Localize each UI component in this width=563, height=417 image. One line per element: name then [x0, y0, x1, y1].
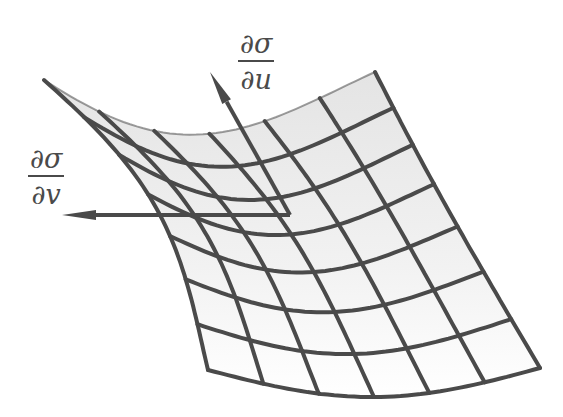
surface-grid-canvas — [0, 0, 563, 417]
fraction-bar — [28, 175, 64, 177]
fraction-bar — [238, 60, 274, 62]
partial-sigma-partial-v-arrowhead-icon — [62, 210, 96, 220]
label-dsigma-dv: ∂σ ∂v — [28, 145, 64, 208]
label-dsigma-du: ∂σ ∂u — [238, 30, 274, 93]
label-du-denominator: ∂u — [239, 66, 274, 93]
partial-sigma-partial-u-arrowhead-icon — [210, 72, 231, 104]
label-dv-denominator: ∂v — [30, 181, 63, 208]
label-dv-numerator: ∂σ — [28, 145, 64, 172]
surface-diagram: ∂σ ∂u ∂σ ∂v — [0, 0, 563, 417]
label-du-numerator: ∂σ — [238, 30, 274, 57]
